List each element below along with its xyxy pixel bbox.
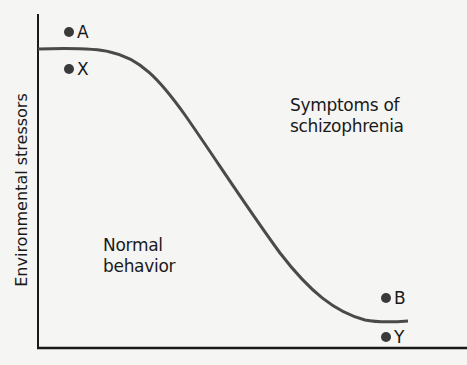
region-label-line: schizophrenia [290,116,404,137]
region-label-line: Symptoms of [290,95,404,116]
threshold-curve [38,48,408,322]
diathesis-stress-diagram: Environmental stressors A X B Y Symptoms… [0,0,467,365]
point-y-label: Y [394,329,404,346]
region-label-normal: Normal behavior [103,235,175,277]
point-a-label: A [77,24,89,41]
region-label-line: Normal [103,235,175,256]
y-axis-label: Environmental stressors [12,93,31,287]
point-b-label: B [394,290,406,307]
point-x-label: X [77,61,89,78]
region-label-line: behavior [103,256,175,277]
diagram-canvas [0,0,467,365]
point-x-dot [64,64,74,74]
point-b-dot [381,293,391,303]
point-a-dot [64,27,74,37]
point-y-dot [381,332,391,342]
region-label-symptoms: Symptoms of schizophrenia [290,95,404,137]
